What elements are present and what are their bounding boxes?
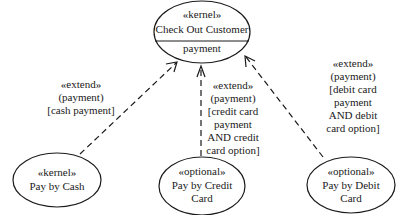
extend-stereotype: «extend» xyxy=(61,78,101,90)
use-case-name-line-2: Card xyxy=(340,192,362,204)
extend-extension-point: (payment) xyxy=(210,92,256,105)
stereotype-label: «kernel» xyxy=(38,166,76,178)
use-case-name-line-1: Pay by Debit xyxy=(322,179,379,191)
use-case-pay-by-cash[interactable]: «kernel» Pay by Cash xyxy=(13,153,101,207)
use-case-name-line-2: Card xyxy=(191,192,213,204)
stereotype-label: «optional» xyxy=(327,165,374,177)
extend-relation-debit: «extend» (payment) [debit card payment A… xyxy=(245,56,380,157)
use-case-name-line-1: Pay by Credit xyxy=(172,179,233,191)
extend-relation-credit: «extend» (payment) [credit card payment … xyxy=(197,66,260,156)
extension-point-label: payment xyxy=(183,42,221,54)
extend-extension-point: (payment) xyxy=(330,70,376,83)
use-case-check-out-customer[interactable]: «kernel» Check Out Customer payment xyxy=(154,1,250,63)
extend-condition-line-1: [credit card xyxy=(208,105,259,117)
extend-condition-line-1: [debit card xyxy=(329,83,377,95)
use-case-pay-by-credit-card[interactable]: «optional» Pay by Credit Card xyxy=(159,157,245,215)
stereotype-label: «optional» xyxy=(178,165,225,177)
extend-condition-line-3: AND debit xyxy=(329,109,378,121)
use-case-diagram: «kernel» Check Out Customer payment «ext… xyxy=(0,0,405,215)
extend-relation-cash: «extend» (payment) [cash payment] xyxy=(47,62,177,154)
extend-condition-line-3: AND credit xyxy=(207,131,259,143)
extend-condition-line-4: card option] xyxy=(206,144,259,156)
use-case-pay-by-debit-card[interactable]: «optional» Pay by Debit Card xyxy=(307,157,395,213)
extend-stereotype: «extend» xyxy=(213,79,253,91)
extend-condition: [cash payment] xyxy=(47,104,115,116)
extend-condition-line-2: payment xyxy=(214,118,252,130)
extend-extension-point: (payment) xyxy=(58,91,104,104)
extend-condition-line-2: payment xyxy=(334,96,372,108)
use-case-name: Pay by Cash xyxy=(30,180,86,192)
extend-stereotype: «extend» xyxy=(333,57,373,69)
use-case-name: Check Out Customer xyxy=(156,23,249,35)
stereotype-label: «kernel» xyxy=(183,8,221,20)
extend-condition-line-4: card option] xyxy=(326,122,379,134)
